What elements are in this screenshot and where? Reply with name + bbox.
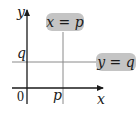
x-tick-label-p: p <box>53 87 62 103</box>
x-axis-label: x <box>97 91 105 107</box>
coordinate-diagram: x = p y = q y x q p 0 <box>0 0 139 113</box>
line-label-x-eq-p: x = p <box>46 14 84 30</box>
origin-label: 0 <box>17 89 24 104</box>
y-axis-label: y <box>16 4 26 20</box>
line-label-y-eq-q: y = q <box>96 54 135 70</box>
y-tick-label-q: q <box>17 45 26 61</box>
